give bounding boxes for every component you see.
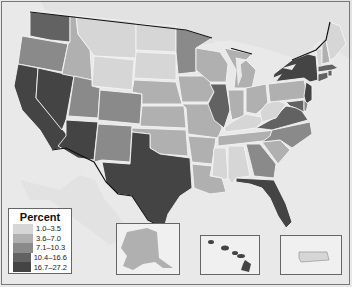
choropleth-map: Percent 1.0–3.53.6–7.07.1–10.310.4–16.61… (0, 0, 352, 287)
legend-item: 10.4–16.6 (13, 253, 67, 263)
state-KS[interactable] (140, 106, 186, 128)
state-WY[interactable] (92, 56, 134, 90)
state-FL[interactable] (236, 178, 292, 228)
legend-swatch (13, 234, 33, 244)
legend-item: 16.7–27.2 (13, 262, 67, 272)
legend-label: 1.0–3.5 (36, 224, 61, 233)
state-SD[interactable] (134, 52, 176, 80)
legend-swatch (13, 262, 31, 272)
state-KY[interactable] (224, 114, 266, 132)
legend-swatch (13, 243, 33, 253)
legend-item: 1.0–3.5 (13, 224, 67, 234)
state-AR[interactable] (188, 136, 216, 164)
legend-label: 3.6–7.0 (36, 234, 61, 243)
state-MS[interactable] (212, 148, 228, 180)
legend-label: 16.7–27.2 (34, 263, 67, 272)
legend-swatch (13, 253, 31, 263)
legend-swatch (13, 224, 33, 234)
state-NM[interactable] (94, 124, 132, 162)
legend-label: 10.4–16.6 (34, 253, 67, 262)
hawaii-inset (200, 235, 260, 275)
state-IN[interactable] (228, 90, 244, 120)
legend-item: 3.6–7.0 (13, 234, 67, 244)
legend-item: 7.1–10.3 (13, 243, 67, 253)
legend-label: 7.1–10.3 (36, 243, 65, 252)
state-CT[interactable] (318, 72, 328, 82)
state-PA[interactable] (268, 80, 308, 102)
puerto-rico-inset (280, 235, 342, 275)
state-HI[interactable] (208, 240, 251, 272)
alaska-inset (116, 223, 180, 275)
legend: Percent 1.0–3.53.6–7.07.1–10.310.4–16.61… (8, 208, 72, 274)
state-CO[interactable] (98, 90, 142, 124)
state-PR[interactable] (299, 252, 329, 262)
legend-title: Percent (13, 211, 67, 223)
state-AK[interactable] (121, 228, 173, 270)
